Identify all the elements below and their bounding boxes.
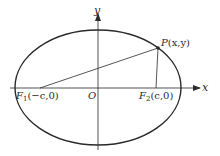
y-axis-label: y (93, 4, 101, 17)
focus-1-label: F1(−c,0) (15, 90, 59, 103)
point-P-dot (156, 46, 160, 50)
focus-2-coords: (c,0) (150, 90, 173, 101)
point-P-coords: (x,y) (168, 37, 190, 48)
x-axis-label: x (202, 81, 209, 94)
ellipse-diagram: x y O F1(−c,0) F2(c,0) P(x,y) (0, 0, 220, 156)
segment-F2-P (156, 48, 158, 88)
segment-F1-P (40, 48, 158, 88)
focus-2-label: F2(c,0) (138, 90, 173, 103)
origin-label: O (88, 90, 96, 101)
point-P-label: P(x,y) (160, 37, 190, 48)
focus-1-coords: (−c,0) (27, 90, 58, 101)
